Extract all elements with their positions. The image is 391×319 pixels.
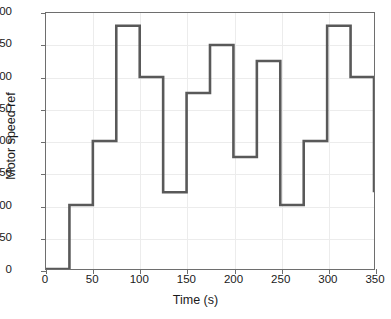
x-tick-label: 150 xyxy=(166,274,206,286)
x-tick-label: 200 xyxy=(214,274,254,286)
x-tick-label: 350 xyxy=(355,274,391,286)
chart-figure: 050100150200250300350400 050100150200250… xyxy=(0,0,391,319)
plot-area xyxy=(45,12,375,270)
y-tick-label: 50 xyxy=(0,232,12,244)
x-tick-label: 0 xyxy=(25,274,65,286)
series-staircase xyxy=(46,13,374,269)
x-tick-label: 300 xyxy=(308,274,348,286)
y-tick-label: 400 xyxy=(0,6,12,18)
x-tick-label: 50 xyxy=(72,274,112,286)
x-axis-title: Time (s) xyxy=(0,293,391,307)
x-tick-label: 100 xyxy=(119,274,159,286)
y-tick-label: 0 xyxy=(0,264,12,276)
y-axis-title: Motor speed ref xyxy=(4,46,18,226)
x-tick-label: 250 xyxy=(261,274,301,286)
series-polyline xyxy=(46,26,374,269)
